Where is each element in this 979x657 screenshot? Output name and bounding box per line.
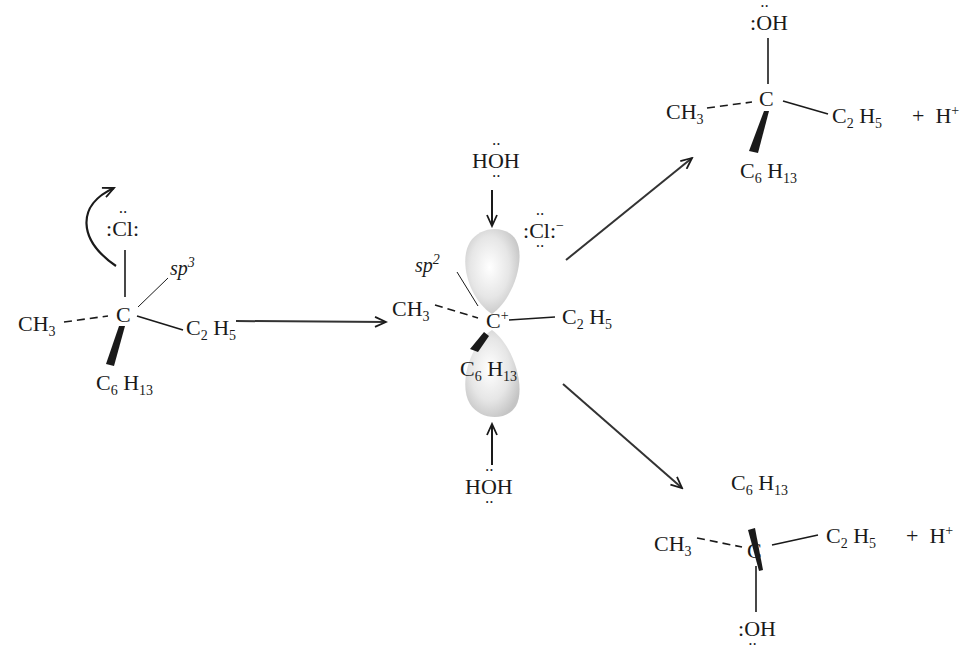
proton-bottom-label: + H+ (906, 525, 953, 547)
sp3-pointer (138, 278, 168, 307)
methyl-label: CH3 (18, 313, 56, 335)
sp2-label: sp2 (415, 255, 440, 275)
ethyl-label: C2 H5 (832, 105, 882, 127)
methyl-label: CH3 (392, 298, 430, 320)
product-arrow-up-icon (566, 158, 692, 260)
wedge-bond (106, 326, 125, 366)
ethyl-label: C2 H5 (562, 306, 612, 328)
hexyl-label: C6 H13 (740, 160, 797, 182)
hexyl-label: C6 H13 (96, 372, 153, 394)
hydroxyl-bottom-label: :O··H (738, 618, 776, 640)
water-top-label: H··O··H (472, 150, 520, 172)
ethyl-bond (509, 317, 555, 320)
reaction-arrow-icon (236, 321, 386, 322)
carbocation-label: C+ (486, 310, 509, 332)
chlorine-label: :··Cl: (106, 218, 139, 240)
methyl-label: CH3 (666, 101, 704, 123)
hexyl-label: C6 H13 (731, 472, 788, 494)
dashed-bond (64, 316, 108, 322)
proton-top-label: + H+ (912, 105, 959, 127)
carbon-label: C (747, 540, 762, 562)
sp3-label: sp3 (170, 258, 195, 278)
chloride-ion-label: :··Cl··:− (523, 220, 564, 242)
hydroxyl-top-label: :··OH (750, 12, 788, 34)
ethyl-label: C2 H5 (186, 317, 236, 339)
carbon-label: C (116, 304, 131, 326)
ethyl-label: C2 H5 (826, 525, 876, 547)
product-arrow-down-icon (563, 384, 682, 488)
methyl-label: CH3 (654, 533, 692, 555)
hexyl-label: C6 H13 (460, 358, 517, 380)
ethyl-bond (137, 316, 183, 330)
dashed-bond (435, 305, 478, 318)
water-bottom-label: H··O··H (465, 476, 513, 498)
carbon-label: C (759, 88, 774, 110)
